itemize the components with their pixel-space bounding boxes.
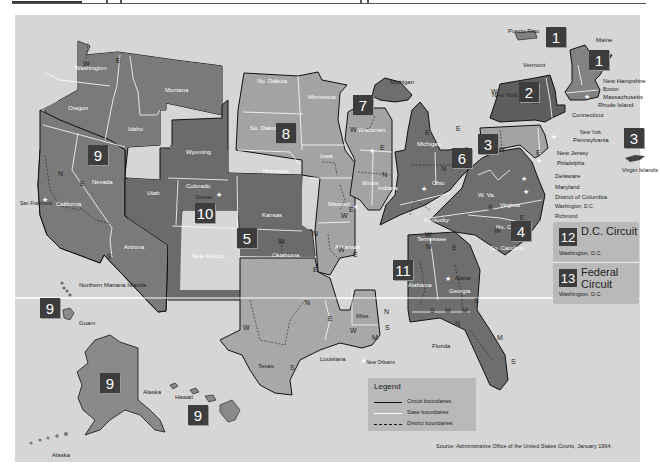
circuit-number: 6 <box>458 150 466 167</box>
svg-text:S: S <box>511 358 516 365</box>
circuit-number: 1 <box>552 29 560 46</box>
federal-circuit-entry: 13 Federal Circuit Washington, D.C. <box>553 263 639 303</box>
circuit-badge-7: 7 <box>353 95 373 115</box>
circuit-number: 9 <box>94 147 102 164</box>
svg-text:W: W <box>243 324 250 331</box>
svg-text:E: E <box>349 206 354 213</box>
svg-text:Kansas: Kansas <box>262 212 282 218</box>
circuit-badge-11: 11 <box>393 260 413 280</box>
svg-text:District of Columbia: District of Columbia <box>555 194 608 200</box>
legend-label: State boundaries <box>407 409 449 415</box>
circuit-number: 9 <box>194 407 202 424</box>
circuit-number: 3 <box>484 136 492 153</box>
svg-text:Northern Mariana Islands: Northern Mariana Islands <box>79 282 146 288</box>
svg-text:No. Dakota: No. Dakota <box>257 78 288 84</box>
svg-text:Boston: Boston <box>603 86 619 92</box>
circuit-badge-1-maine: 1 <box>589 50 609 70</box>
circuit-badge-10: 10 <box>195 203 215 223</box>
svg-text:S: S <box>290 364 295 371</box>
svg-text:★: ★ <box>361 357 367 364</box>
svg-text:E: E <box>353 251 358 258</box>
svg-text:E: E <box>313 266 318 273</box>
svg-text:Idaho: Idaho <box>128 126 144 132</box>
svg-text:E: E <box>452 244 457 251</box>
svg-text:Virginia: Virginia <box>500 202 521 208</box>
virgin-islands-shape <box>625 155 645 162</box>
svg-text:Rhode Island: Rhode Island <box>598 102 633 108</box>
svg-text:★: ★ <box>523 188 529 195</box>
svg-text:Nevada: Nevada <box>92 179 113 185</box>
svg-text:Washington, D.C.: Washington, D.C. <box>555 203 594 209</box>
svg-text:Connecticut: Connecticut <box>572 112 604 118</box>
svg-text:Minnesota: Minnesota <box>308 94 336 100</box>
circuit-number: 9 <box>46 300 54 317</box>
svg-text:★: ★ <box>445 275 451 282</box>
svg-text:Oklahoma: Oklahoma <box>272 252 300 258</box>
svg-text:★: ★ <box>551 133 557 140</box>
svg-text:Maine: Maine <box>596 37 613 43</box>
circuit-badge-9: 9 <box>88 145 108 165</box>
circuit-number: 5 <box>243 230 251 247</box>
svg-text:Pennsylvania: Pennsylvania <box>573 137 609 143</box>
svg-text:Guam: Guam <box>79 320 95 326</box>
svg-text:E: E <box>328 315 333 322</box>
svg-text:W: W <box>498 146 505 153</box>
svg-text:S: S <box>385 324 390 331</box>
svg-text:Miss.: Miss. <box>356 313 370 319</box>
circuit-badge-1: 1 <box>546 27 566 47</box>
circuit-badge-3-virgin-islands: 3 <box>624 128 644 148</box>
svg-text:W: W <box>341 212 348 219</box>
svg-text:New Jersey: New Jersey <box>557 150 588 156</box>
svg-text:W: W <box>350 327 357 334</box>
svg-text:★: ★ <box>584 93 590 100</box>
circuit-badge-4: 4 <box>511 221 531 241</box>
svg-text:New Mexico: New Mexico <box>192 253 225 259</box>
svg-text:Virgin Islands: Virgin Islands <box>622 167 658 173</box>
svg-text:N: N <box>441 165 446 172</box>
federal-circuit-location: Washington, D.C. <box>559 291 602 297</box>
svg-text:M: M <box>445 307 451 314</box>
svg-text:Missouri: Missouri <box>328 201 350 207</box>
dc-federal-circuit-box: 12 D.C. Circuit Washington, D.C. 13 Fede… <box>553 222 639 304</box>
dc-circuit-location: Washington, D.C. <box>559 250 602 256</box>
svg-text:E: E <box>425 129 430 136</box>
svg-text:M: M <box>497 334 503 341</box>
legend-label: District boundaries <box>407 420 453 426</box>
svg-text:Ohio: Ohio <box>432 180 445 186</box>
svg-text:Atlanta: Atlanta <box>455 275 471 281</box>
circuit-badge-13: 13 <box>559 269 577 287</box>
svg-text:S: S <box>430 307 435 314</box>
svg-text:S: S <box>474 297 479 304</box>
svg-text:E: E <box>520 214 525 221</box>
svg-text:Alaska: Alaska <box>52 452 71 458</box>
svg-text:E: E <box>116 57 121 64</box>
svg-text:Alabama: Alabama <box>408 282 432 288</box>
svg-text:Denver: Denver <box>196 194 212 200</box>
svg-text:W: W <box>83 60 90 67</box>
svg-text:Philadelphia: Philadelphia <box>557 160 584 166</box>
svg-text:Montana: Montana <box>165 87 189 93</box>
svg-text:W: W <box>278 238 285 245</box>
circuit-badge-9-mariana: 9 <box>40 298 60 318</box>
circuit-badge-2: 2 <box>519 82 539 102</box>
circuit-number: 4 <box>517 223 525 240</box>
svg-text:Georgia: Georgia <box>449 288 471 294</box>
svg-text:Arizona: Arizona <box>124 244 145 250</box>
circuit-number: 10 <box>197 205 214 222</box>
district-line-swatch <box>374 424 402 425</box>
svg-text:M: M <box>372 334 378 341</box>
legend-item-district: District boundaries <box>374 420 474 428</box>
svg-text:Washington: Washington <box>75 65 106 71</box>
legend-item-circuit: Circuit boundaries <box>374 398 474 406</box>
svg-text:Indiana: Indiana <box>378 185 398 191</box>
circuit-badge-9-alaska: 9 <box>100 373 120 393</box>
svg-text:Hawaii: Hawaii <box>175 394 193 400</box>
circuit-badge-9-hawaii: 9 <box>188 405 208 425</box>
map-legend: Legend Circuit boundaries State boundari… <box>368 378 476 431</box>
svg-text:Massachusetts: Massachusetts <box>603 94 643 100</box>
svg-text:Illinois: Illinois <box>362 180 379 186</box>
circuit-number: 1 <box>595 52 603 69</box>
circuit-number: 2 <box>525 84 533 101</box>
svg-text:★: ★ <box>421 185 427 192</box>
svg-text:Puerto Rico: Puerto Rico <box>508 28 540 34</box>
